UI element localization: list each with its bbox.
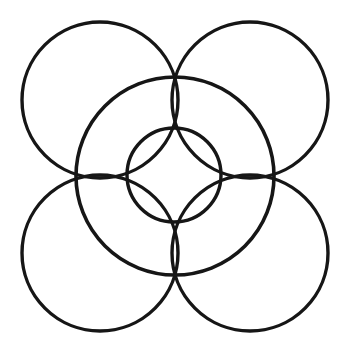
circles-figure-svg bbox=[0, 0, 346, 359]
figure-canvas bbox=[0, 0, 346, 359]
figure-background bbox=[0, 0, 346, 359]
